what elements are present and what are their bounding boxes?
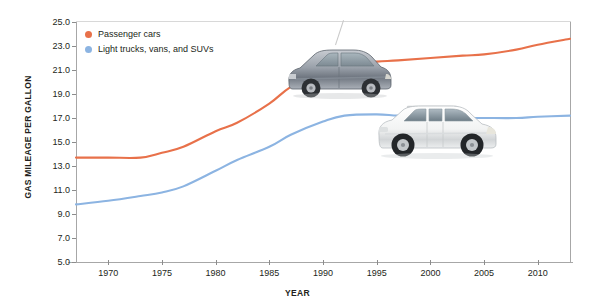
x-axis-tick-label: 2000	[420, 268, 440, 278]
x-axis-tick-label: 1990	[313, 268, 333, 278]
x-axis-tick-label: 1980	[206, 268, 226, 278]
x-axis-tick-label: 2010	[528, 268, 548, 278]
x-axis-tick-label: 1985	[259, 268, 279, 278]
x-axis-tick-mark	[430, 260, 431, 265]
x-axis-tick-mark	[108, 260, 109, 265]
legend-item: Passenger cars	[85, 27, 214, 41]
x-axis-title-text: YEAR	[285, 288, 310, 298]
chart-legend: Passenger carsLight trucks, vans, and SU…	[85, 27, 214, 57]
x-axis-tick-label: 1970	[98, 268, 118, 278]
x-axis-tick-labels: 197019751980198519901995200020052010	[0, 268, 595, 288]
x-axis-tick-mark	[216, 260, 217, 265]
x-axis-title: YEAR	[0, 288, 595, 298]
legend-swatch-dot-icon	[85, 31, 92, 38]
x-axis-tick-mark	[323, 260, 324, 265]
passenger-car-photo	[283, 43, 395, 101]
x-axis-tick-mark	[377, 260, 378, 265]
x-axis-tick-label: 1975	[152, 268, 172, 278]
legend-label: Passenger cars	[98, 29, 161, 39]
x-axis-tick-mark	[162, 260, 163, 265]
legend-item: Light trucks, vans, and SUVs	[85, 42, 214, 56]
gas-mileage-line-chart: GAS MILEAGE PER GALLON 25.023.021.019.01…	[0, 0, 595, 308]
legend-swatch-dot-icon	[85, 46, 92, 53]
x-axis-tick-mark	[538, 260, 539, 265]
x-axis-tick-label: 1995	[367, 268, 387, 278]
x-axis-tick-mark	[484, 260, 485, 265]
x-axis-tick-mark	[269, 260, 270, 265]
x-axis-tick-label: 2005	[474, 268, 494, 278]
suv-photo	[372, 98, 502, 160]
legend-label: Light trucks, vans, and SUVs	[98, 44, 214, 54]
